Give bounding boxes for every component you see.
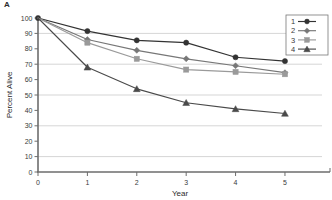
x-tick-label-5: 5 [283, 179, 287, 186]
marker-square [134, 56, 139, 61]
survival-chart-figure: 0102030405060708090100Percent Alive01234… [0, 0, 332, 200]
legend-label-1: 1 [291, 17, 295, 26]
y-tick-label-30: 30 [25, 122, 33, 129]
marker-circle [282, 59, 287, 64]
marker-square [233, 69, 238, 74]
marker-circle [134, 38, 139, 43]
y-tick-label-40: 40 [25, 107, 33, 114]
legend-label-3: 3 [291, 36, 295, 45]
y-tick-label-80: 80 [25, 45, 33, 52]
y-tick-label-0: 0 [29, 169, 33, 176]
y-tick-label-20: 20 [25, 138, 33, 145]
legend-label-4: 4 [291, 45, 295, 54]
marker-triangle [133, 86, 140, 92]
x-axis: 012345 [36, 168, 330, 186]
x-tick-label-4: 4 [234, 179, 238, 186]
marker-diamond [233, 63, 239, 69]
marker-circle [305, 19, 310, 24]
y-tick-label-90: 90 [25, 30, 33, 37]
legend: 1234 [286, 15, 328, 55]
series-2 [38, 18, 288, 76]
marker-square [184, 67, 189, 72]
series-line-3 [38, 18, 285, 74]
chart-canvas: 0102030405060708090100Percent Alive01234… [0, 0, 332, 200]
legend-label-2: 2 [291, 26, 295, 35]
series-line-4 [38, 18, 285, 113]
x-tick-label-0: 0 [36, 179, 40, 186]
x-tick-label-1: 1 [85, 179, 89, 186]
y-tick-label-70: 70 [25, 61, 33, 68]
x-tick-label-3: 3 [184, 179, 188, 186]
y-tick-label-50: 50 [25, 92, 33, 99]
gridlines [38, 33, 322, 156]
y-tick-label-100: 100 [21, 15, 33, 22]
y-axis: 0102030405060708090100 [21, 15, 38, 176]
marker-circle [233, 55, 238, 60]
marker-diamond [183, 56, 189, 62]
y-axis-title: Percent Alive [5, 71, 14, 118]
series-1 [35, 15, 287, 63]
marker-square [305, 38, 310, 43]
marker-circle [85, 28, 90, 33]
x-axis-title: Year [172, 189, 189, 198]
marker-square [85, 40, 90, 45]
marker-square [282, 72, 287, 77]
marker-diamond [134, 47, 140, 53]
x-tick-label-2: 2 [135, 179, 139, 186]
y-tick-label-10: 10 [25, 153, 33, 160]
marker-circle [184, 40, 189, 45]
y-tick-label-60: 60 [25, 76, 33, 83]
series-4 [38, 18, 288, 116]
